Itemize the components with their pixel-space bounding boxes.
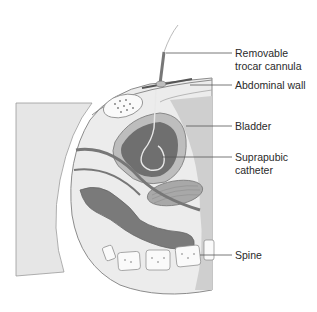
trocar-cannula bbox=[160, 52, 164, 84]
label-suprapubic-catheter: Suprapubic catheter bbox=[235, 151, 288, 176]
label-abdominal-wall: Abdominal wall bbox=[235, 79, 306, 92]
label-spine: Spine bbox=[235, 249, 262, 262]
label-bladder: Bladder bbox=[235, 120, 271, 133]
label-trocar-cannula: Removable trocar cannula bbox=[235, 47, 302, 72]
